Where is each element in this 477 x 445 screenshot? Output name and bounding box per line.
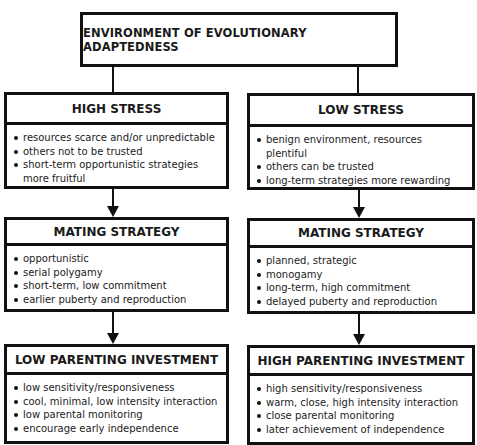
list-item: cool, minimal, low intensity interaction	[14, 395, 220, 409]
list-item: resources scarce and/or unpredictable	[14, 131, 220, 145]
node-high-parenting-investment: HIGH PARENTING INVESTMENT high sensitivi…	[247, 345, 475, 445]
list-item: low sensitivity/responsiveness	[14, 381, 220, 395]
arrow-shaft-right-1	[358, 190, 360, 208]
list-item: opportunistic	[14, 252, 220, 266]
node-low-stress-title: LOW STRESS	[250, 96, 472, 127]
list-item: short-term opportunistic strategies more…	[14, 158, 220, 185]
list-item: others not to be trusted	[14, 145, 220, 159]
node-high-stress-title: HIGH STRESS	[7, 95, 226, 125]
node-mating-strategy-right-title: MATING STRATEGY	[250, 221, 472, 248]
node-environment-label: ENVIRONMENT OF EVOLUTIONARY ADAPTEDNESS	[83, 26, 395, 54]
connector-top-right	[357, 67, 359, 94]
arrow-down-icon	[107, 333, 119, 344]
arrow-down-icon	[353, 207, 365, 218]
list-item: long-term, high commitment	[257, 281, 466, 295]
list-item: earlier puberty and reproduction	[14, 293, 220, 307]
node-mating-strategy-left: MATING STRATEGY opportunistic serial pol…	[4, 217, 229, 312]
node-environment: ENVIRONMENT OF EVOLUTIONARY ADAPTEDNESS	[80, 12, 398, 67]
node-low-parenting-investment: LOW PARENTING INVESTMENT low sensitivity…	[4, 344, 229, 444]
low-stress-list: benign environment, resources plentiful …	[250, 127, 472, 187]
arrow-down-icon	[353, 334, 365, 345]
list-item: low parental monitoring	[14, 408, 220, 422]
high-stress-list: resources scarce and/or unpredictable ot…	[7, 125, 226, 185]
list-item: benign environment, resources plentiful	[257, 133, 466, 160]
node-high-stress: HIGH STRESS resources scarce and/or unpr…	[4, 92, 229, 189]
mating-right-list: planned, strategic monogamy long-term, h…	[250, 248, 472, 308]
arrow-down-icon	[107, 206, 119, 217]
list-item: serial polygamy	[14, 266, 220, 280]
clipped-figure-caption	[10, 0, 390, 3]
arrow-shaft-right-2	[358, 314, 360, 335]
high-parenting-list: high sensitivity/responsiveness warm, cl…	[250, 376, 472, 436]
list-item: warm, close, high intensity interaction	[257, 396, 466, 410]
list-item: encourage early independence	[14, 422, 220, 436]
node-mating-strategy-right: MATING STRATEGY planned, strategic monog…	[247, 218, 475, 314]
list-item: planned, strategic	[257, 254, 466, 268]
node-low-parenting-title: LOW PARENTING INVESTMENT	[7, 347, 226, 375]
list-item: high sensitivity/responsiveness	[257, 382, 466, 396]
list-item: monogamy	[257, 268, 466, 282]
list-item: later achievement of independence	[257, 423, 466, 437]
list-item: delayed puberty and reproduction	[257, 295, 466, 309]
list-item: close parental monitoring	[257, 409, 466, 423]
arrow-shaft-left-1	[112, 189, 114, 207]
mating-left-list: opportunistic serial polygamy short-term…	[7, 246, 226, 306]
arrow-shaft-left-2	[112, 312, 114, 334]
list-item: long-term strategies more rewarding	[257, 174, 466, 188]
node-high-parenting-title: HIGH PARENTING INVESTMENT	[250, 348, 472, 376]
node-mating-strategy-left-title: MATING STRATEGY	[7, 220, 226, 246]
list-item: short-term, low commitment	[14, 279, 220, 293]
node-low-stress: LOW STRESS benign environment, resources…	[247, 93, 475, 190]
connector-top-left	[112, 67, 114, 93]
list-item: others can be trusted	[257, 160, 466, 174]
low-parenting-list: low sensitivity/responsiveness cool, min…	[7, 375, 226, 435]
